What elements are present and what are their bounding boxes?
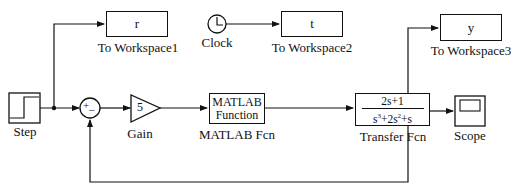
fraction-bar <box>362 108 424 109</box>
to-workspace2-variable: t <box>310 16 314 32</box>
gain-block[interactable] <box>131 95 160 122</box>
step-block[interactable] <box>9 93 40 123</box>
matlab-fcn-label: MATLAB Fcn <box>199 127 275 143</box>
to-workspace1-variable: r <box>135 16 139 32</box>
junction-dot <box>52 106 56 110</box>
transfer-fcn-label: Transfer Fcn <box>360 129 426 145</box>
to-workspace3-label: To Workspace3 <box>431 43 511 59</box>
to-workspace3-variable: y <box>468 20 475 36</box>
scope-block[interactable] <box>455 96 485 126</box>
to-workspace2-label: To Workspace2 <box>272 40 352 56</box>
gain-value: 5 <box>137 100 143 115</box>
clock-label: Clock <box>201 35 232 51</box>
clock-block[interactable] <box>208 15 226 33</box>
wire-step-to-workspace1 <box>54 24 104 108</box>
to-workspace2-block[interactable]: t <box>281 11 343 37</box>
to-workspace3-block[interactable]: y <box>440 14 502 41</box>
step-label: Step <box>13 124 36 140</box>
transfer-fcn-block[interactable]: 2s+1 s3+2s2+s <box>355 93 430 126</box>
matlab-fcn-line2: Function <box>216 109 259 122</box>
gain-label: Gain <box>127 126 152 142</box>
to-workspace1-block[interactable]: r <box>106 11 168 37</box>
sum-minus-sign: − <box>89 103 96 118</box>
transfer-fcn-numerator: 2s+1 <box>379 95 405 107</box>
scope-label: Scope <box>454 128 486 144</box>
to-workspace1-label: To Workspace1 <box>98 40 178 56</box>
matlab-fcn-block[interactable]: MATLAB Function <box>209 93 265 124</box>
transfer-fcn-denominator: s3+2s2+s <box>373 110 412 125</box>
matlab-fcn-line1: MATLAB <box>212 96 261 109</box>
